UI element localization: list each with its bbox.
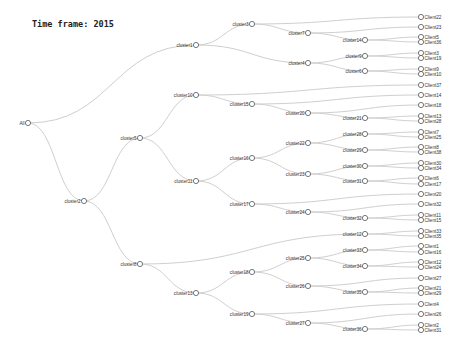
tree-node-client24[interactable]: Client24 <box>418 264 441 269</box>
node-circle-icon[interactable] <box>305 140 310 145</box>
tree-node-all[interactable]: All <box>19 120 30 125</box>
node-circle-icon[interactable] <box>418 181 423 186</box>
tree-node-client18[interactable]: Client18 <box>418 102 441 107</box>
node-circle-icon[interactable] <box>362 37 367 42</box>
tree-node-client6[interactable]: Client6 <box>418 175 439 180</box>
tree-node-cluster6[interactable]: cluster6 <box>345 68 367 73</box>
node-circle-icon[interactable] <box>418 290 423 295</box>
node-circle-icon[interactable] <box>137 135 142 140</box>
node-circle-icon[interactable] <box>418 50 423 55</box>
tree-node-client25[interactable]: Client25 <box>418 134 441 139</box>
tree-node-cluster2[interactable]: cluster2 <box>64 198 86 203</box>
tree-node-client29[interactable]: Client29 <box>418 290 441 295</box>
tree-node-client38[interactable]: Client38 <box>418 149 441 154</box>
tree-node-cluster31[interactable]: cluster31 <box>343 178 368 183</box>
tree-node-client36[interactable]: Client36 <box>418 39 441 44</box>
node-circle-icon[interactable] <box>418 243 423 248</box>
node-circle-icon[interactable] <box>418 327 423 332</box>
tree-node-client26[interactable]: Client26 <box>418 311 441 316</box>
node-circle-icon[interactable] <box>362 289 367 294</box>
node-circle-icon[interactable] <box>249 101 254 106</box>
node-circle-icon[interactable] <box>193 290 198 295</box>
node-circle-icon[interactable] <box>193 42 198 47</box>
tree-node-cluster14[interactable]: cluster14 <box>343 37 368 42</box>
tree-node-client16[interactable]: Client16 <box>418 249 441 254</box>
node-circle-icon[interactable] <box>249 269 254 274</box>
node-circle-icon[interactable] <box>305 60 310 65</box>
node-circle-icon[interactable] <box>418 191 423 196</box>
tree-node-cluster33[interactable]: cluster33 <box>343 247 368 252</box>
node-circle-icon[interactable] <box>362 263 367 268</box>
node-circle-icon[interactable] <box>418 71 423 76</box>
tree-node-cluster11[interactable]: cluster11 <box>174 178 198 183</box>
tree-node-cluster27[interactable]: cluster27 <box>286 320 311 325</box>
node-circle-icon[interactable] <box>362 115 367 120</box>
node-circle-icon[interactable] <box>362 68 367 73</box>
tree-node-client32[interactable]: Client32 <box>418 201 441 206</box>
node-circle-icon[interactable] <box>418 322 423 327</box>
node-circle-icon[interactable] <box>418 24 423 29</box>
node-circle-icon[interactable] <box>418 134 423 139</box>
node-circle-icon[interactable] <box>305 255 310 260</box>
node-circle-icon[interactable] <box>418 102 423 107</box>
tree-node-client35[interactable]: Client35 <box>418 233 441 238</box>
node-circle-icon[interactable] <box>362 247 367 252</box>
tree-node-cluster36[interactable]: cluster36 <box>343 326 368 331</box>
tree-node-cluster17[interactable]: cluster17 <box>230 201 255 206</box>
node-circle-icon[interactable] <box>418 233 423 238</box>
node-circle-icon[interactable] <box>193 92 198 97</box>
node-circle-icon[interactable] <box>362 163 367 168</box>
node-circle-icon[interactable] <box>418 275 423 280</box>
tree-node-cluster23[interactable]: cluster23 <box>286 171 311 176</box>
node-circle-icon[interactable] <box>418 129 423 134</box>
tree-node-cluster12[interactable]: cluster12 <box>343 231 368 236</box>
node-circle-icon[interactable] <box>418 228 423 233</box>
tree-node-cluster15[interactable]: cluster15 <box>230 101 255 106</box>
node-circle-icon[interactable] <box>137 261 142 266</box>
tree-node-cluster25[interactable]: cluster25 <box>286 255 311 260</box>
tree-node-client22[interactable]: Client22 <box>418 14 441 19</box>
tree-node-client23[interactable]: Client23 <box>418 24 441 29</box>
tree-node-client1[interactable]: Client1 <box>418 243 439 248</box>
tree-node-cluster1[interactable]: cluster1 <box>176 42 198 47</box>
tree-node-cluster9[interactable]: cluster9 <box>345 53 367 58</box>
node-circle-icon[interactable] <box>249 21 254 26</box>
tree-node-cluster26[interactable]: cluster26 <box>286 283 311 288</box>
tree-node-client37[interactable]: Client37 <box>418 82 441 87</box>
tree-node-client28[interactable]: Client28 <box>418 118 441 123</box>
node-circle-icon[interactable] <box>418 301 423 306</box>
node-circle-icon[interactable] <box>305 320 310 325</box>
tree-node-cluster35[interactable]: cluster35 <box>343 289 368 294</box>
node-circle-icon[interactable] <box>362 53 367 58</box>
node-circle-icon[interactable] <box>418 92 423 97</box>
tree-node-cluster20[interactable]: cluster20 <box>286 110 311 115</box>
tree-node-client10[interactable]: Client10 <box>418 71 441 76</box>
node-circle-icon[interactable] <box>418 249 423 254</box>
node-circle-icon[interactable] <box>249 155 254 160</box>
node-circle-icon[interactable] <box>305 30 310 35</box>
tree-node-client14[interactable]: Client14 <box>418 92 441 97</box>
node-circle-icon[interactable] <box>249 311 254 316</box>
tree-node-cluster18[interactable]: cluster18 <box>230 269 255 274</box>
node-circle-icon[interactable] <box>362 231 367 236</box>
node-circle-icon[interactable] <box>362 178 367 183</box>
tree-node-cluster13[interactable]: cluster13 <box>174 290 199 295</box>
node-circle-icon[interactable] <box>362 131 367 136</box>
tree-node-client4[interactable]: Client4 <box>418 301 439 306</box>
tree-node-client27[interactable]: Client27 <box>418 275 441 280</box>
tree-node-cluster7[interactable]: cluster7 <box>288 30 310 35</box>
tree-node-client31[interactable]: Client31 <box>418 327 441 332</box>
tree-node-cluster8[interactable]: cluster8 <box>120 261 142 266</box>
node-circle-icon[interactable] <box>418 201 423 206</box>
node-circle-icon[interactable] <box>418 285 423 290</box>
tree-node-client20[interactable]: Client20 <box>418 191 441 196</box>
tree-node-client15[interactable]: Client15 <box>418 217 441 222</box>
node-circle-icon[interactable] <box>25 120 30 125</box>
node-circle-icon[interactable] <box>418 39 423 44</box>
tree-node-cluster29[interactable]: cluster29 <box>343 147 368 152</box>
tree-node-cluster21[interactable]: cluster21 <box>343 115 368 120</box>
node-circle-icon[interactable] <box>193 178 198 183</box>
tree-node-client34[interactable]: Client34 <box>418 165 441 170</box>
tree-node-cluster28[interactable]: cluster28 <box>343 131 368 136</box>
node-circle-icon[interactable] <box>418 217 423 222</box>
